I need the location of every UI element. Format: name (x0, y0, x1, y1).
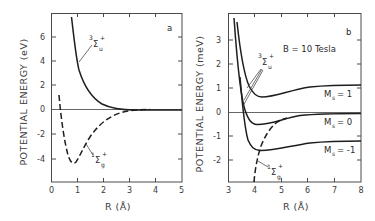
panel-a-x-tick-labels: 0 1 2 3 4 5 (49, 186, 184, 195)
svg-text:= 0: = 0 (337, 117, 352, 127)
svg-text:+: + (269, 52, 274, 59)
svg-text:+: + (102, 150, 107, 157)
svg-text:3: 3 (127, 186, 132, 195)
svg-text:6: 6 (305, 186, 310, 195)
svg-text:1: 1 (216, 84, 221, 93)
svg-text:+: + (278, 162, 283, 169)
svg-text:-2: -2 (213, 156, 221, 165)
panel-b-letter: b (346, 27, 351, 37)
svg-text:M: M (324, 117, 331, 127)
svg-text:2: 2 (216, 60, 221, 69)
svg-text:5: 5 (279, 186, 284, 195)
svg-text:0: 0 (40, 105, 45, 114)
panel-b-y-axis-label: POTENTIAL ENERGY (meV) (194, 36, 205, 173)
svg-text:Σ: Σ (271, 167, 276, 177)
svg-text:5: 5 (179, 186, 184, 195)
svg-text:Σ: Σ (95, 155, 100, 165)
svg-text:8: 8 (358, 186, 363, 195)
svg-text:4: 4 (252, 186, 257, 195)
panel-b-singlet-label: 1 Σ g + (258, 161, 283, 181)
panel-a-letter: a (167, 23, 172, 33)
svg-text:= 1: = 1 (337, 89, 352, 99)
svg-text:0: 0 (49, 186, 54, 195)
svg-text:s: s (332, 150, 335, 157)
panel-b: 3 4 5 6 7 8 3 2 1 0 -1 -2 R (Å) POTENTIA… (194, 13, 364, 212)
panel-a-y-ticks (52, 37, 182, 159)
panel-a-triplet-curve (72, 17, 183, 110)
svg-text:= -1: = -1 (337, 145, 355, 155)
panel-b-x-tick-labels: 3 4 5 6 7 8 (226, 186, 364, 195)
svg-text:s: s (332, 122, 335, 129)
svg-text:M: M (324, 89, 331, 99)
svg-text:1: 1 (75, 186, 80, 195)
panel-b-ms-plus1-curve (237, 22, 361, 97)
svg-text:M: M (324, 145, 331, 155)
panel-b-ms-0-curve (234, 18, 361, 125)
svg-text:g: g (277, 173, 281, 181)
panel-b-y-tick-labels: 3 2 1 0 -1 -2 (213, 36, 221, 165)
svg-text:g: g (101, 161, 105, 169)
svg-text:4: 4 (153, 186, 158, 195)
svg-text:-4: -4 (37, 155, 45, 164)
svg-text:2: 2 (101, 186, 106, 195)
svg-text:s: s (332, 94, 335, 101)
ms-plus1-label: M s = 1 (324, 89, 352, 101)
panel-b-x-axis-label: R (Å) (283, 201, 309, 212)
panel-a-y-axis-label: POTENTIAL ENERGY (eV) (18, 38, 29, 165)
svg-text:-1: -1 (213, 132, 221, 141)
panel-b-x-ticks (255, 13, 335, 182)
panel-a-y-tick-labels: 6 4 2 0 -2 -4 (37, 33, 45, 164)
svg-text:2: 2 (40, 81, 45, 90)
svg-text:u: u (268, 63, 272, 70)
panel-a-x-axis-label: R (Å) (105, 201, 131, 212)
figure: 0 1 2 3 4 5 6 4 2 0 -2 -4 R (Å) POTENTIA… (0, 0, 375, 221)
svg-text:6: 6 (40, 33, 45, 42)
svg-text:3: 3 (226, 186, 231, 195)
svg-text:Σ: Σ (93, 39, 98, 49)
field-strength-label: B = 10 Tesla (283, 44, 336, 54)
svg-text:3: 3 (216, 36, 221, 45)
ms-minus1-label: M s = -1 (324, 145, 355, 157)
svg-text:4: 4 (40, 57, 45, 66)
svg-text:0: 0 (216, 108, 221, 117)
svg-text:+: + (100, 34, 105, 41)
panel-a-frame (52, 14, 183, 183)
panel-a-singlet-label: 1 Σ g + (86, 144, 107, 169)
panel-a: 0 1 2 3 4 5 6 4 2 0 -2 -4 R (Å) POTENTIA… (18, 13, 184, 212)
panel-b-triplet-label: 3 Σ u + (243, 52, 274, 106)
panel-a-triplet-label: 3 Σ u + (79, 34, 105, 62)
svg-text:-2: -2 (37, 130, 45, 139)
svg-text:Σ: Σ (262, 57, 267, 67)
svg-text:7: 7 (332, 186, 337, 195)
svg-text:u: u (99, 45, 103, 52)
ms-0-label: M s = 0 (324, 117, 352, 129)
